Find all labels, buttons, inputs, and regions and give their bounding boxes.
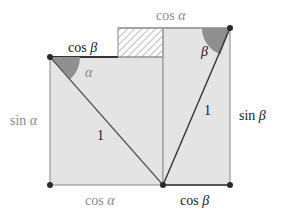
label-cos-beta-bottom: cos β: [180, 193, 209, 208]
label-cos-beta-top: cos β: [68, 40, 97, 55]
point-bottom-right: [227, 182, 233, 188]
label-cos-alpha-bottom: cos α: [85, 193, 115, 208]
trig-diagram: cos β cos α sin α sin β cos α cos β 1 1 …: [0, 0, 282, 216]
label-angle-alpha: α: [85, 65, 93, 80]
hatched-rectangle: [118, 28, 163, 57]
label-cos-alpha-top: cos α: [156, 8, 186, 23]
label-angle-beta: β: [200, 44, 208, 59]
label-sin-alpha: sin α: [10, 113, 38, 128]
point-bottom-mid: [160, 182, 166, 188]
point-bottom-left: [47, 182, 53, 188]
label-hyp-right: 1: [204, 103, 211, 118]
label-hyp-left: 1: [97, 128, 104, 143]
label-sin-beta: sin β: [239, 108, 266, 123]
point-top-left: [47, 54, 53, 60]
point-top-right: [227, 25, 233, 31]
